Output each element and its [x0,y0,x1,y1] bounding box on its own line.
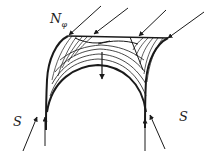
support-label-left: S [13,115,22,128]
meridional-force-arrows [69,6,204,38]
shell-right-edge [145,38,168,128]
n-phi-subscript: φ [61,20,67,29]
n-phi-label: Nφ [50,12,67,29]
shell-top-edge [68,36,168,38]
left-support-arrows [23,117,45,151]
support-label-right: S [179,110,188,123]
shell-left-edge [46,36,68,130]
right-support-arrows [145,115,165,151]
vault-shell-diagram [0,0,212,160]
n-phi-main: N [50,11,61,26]
